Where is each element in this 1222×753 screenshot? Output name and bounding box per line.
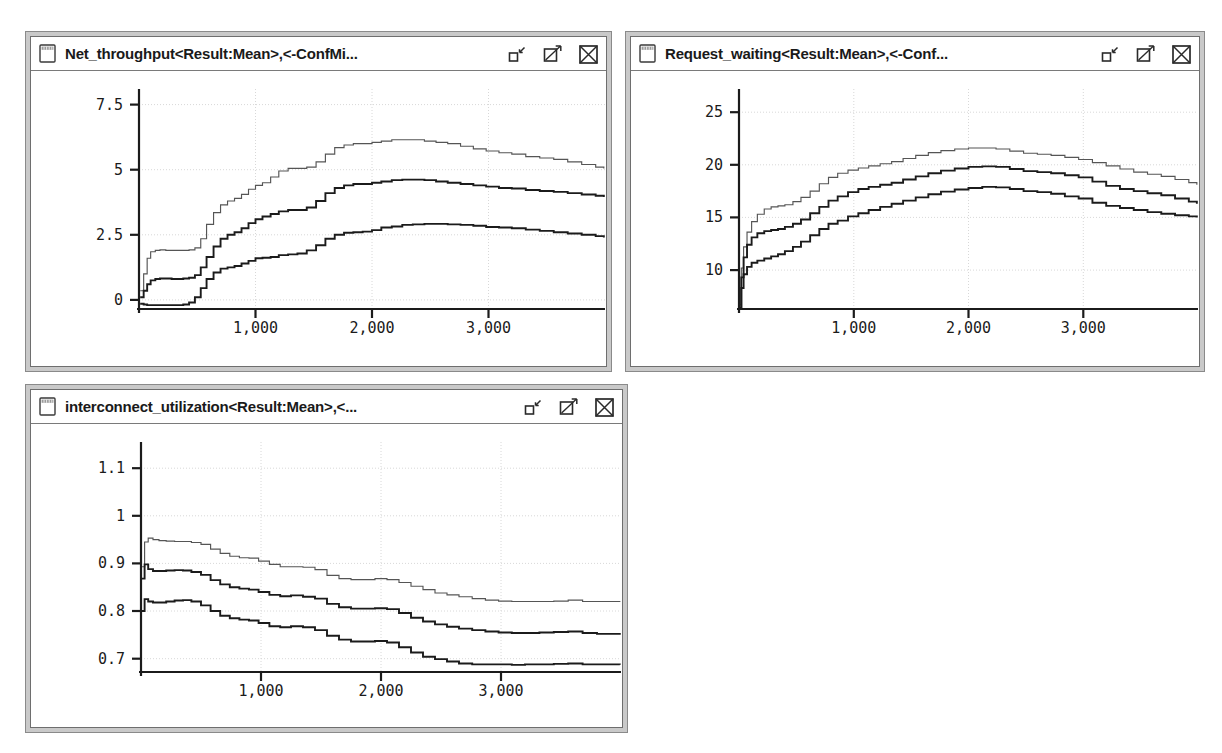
svg-text:1,000: 1,000 bbox=[831, 319, 876, 337]
svg-text:10: 10 bbox=[705, 261, 723, 279]
svg-text:15: 15 bbox=[705, 208, 723, 226]
maximize-button[interactable] bbox=[559, 396, 581, 418]
svg-text:0: 0 bbox=[114, 291, 123, 309]
svg-text:25: 25 bbox=[705, 103, 723, 121]
chart-svg: 02.557.51,0002,0003,000 bbox=[31, 71, 606, 366]
window-inner: Request_waiting<Result:Mean>,<-Conf... bbox=[630, 36, 1200, 367]
svg-text:3,000: 3,000 bbox=[1061, 319, 1106, 337]
svg-text:2,000: 2,000 bbox=[349, 319, 394, 337]
window-icon bbox=[39, 397, 56, 416]
window-title: interconnect_utilization<Result:Mean>,<.… bbox=[65, 398, 514, 415]
minimize-button[interactable] bbox=[508, 43, 530, 65]
svg-text:2,000: 2,000 bbox=[946, 319, 991, 337]
title-bar[interactable]: Request_waiting<Result:Mean>,<-Conf... bbox=[631, 37, 1199, 71]
minimize-button[interactable] bbox=[1101, 43, 1123, 65]
maximize-button[interactable] bbox=[543, 43, 565, 65]
svg-text:5: 5 bbox=[114, 161, 123, 179]
plot-area-net-throughput: 02.557.51,0002,0003,000 bbox=[31, 71, 606, 366]
window-interconnect-utilization[interactable]: interconnect_utilization<Result:Mean>,<.… bbox=[25, 384, 628, 733]
close-button[interactable] bbox=[1171, 43, 1193, 65]
chart-svg: 101520251,0002,0003,000 bbox=[631, 71, 1199, 366]
svg-text:3,000: 3,000 bbox=[478, 682, 523, 700]
svg-text:1.1: 1.1 bbox=[98, 459, 125, 477]
minimize-button[interactable] bbox=[524, 396, 546, 418]
window-net-throughput[interactable]: Net_throughput<Result:Mean>,<-ConfMi... bbox=[25, 31, 612, 372]
svg-text:2.5: 2.5 bbox=[96, 226, 123, 244]
svg-text:1,000: 1,000 bbox=[233, 319, 278, 337]
title-bar[interactable]: Net_throughput<Result:Mean>,<-ConfMi... bbox=[31, 37, 606, 71]
plot-area-request-waiting: 101520251,0002,0003,000 bbox=[631, 71, 1199, 366]
plot-area-interconnect-utilization: 0.70.80.911.11,0002,0003,000 bbox=[31, 424, 622, 727]
window-request-waiting[interactable]: Request_waiting<Result:Mean>,<-Conf... bbox=[625, 31, 1205, 372]
window-title: Request_waiting<Result:Mean>,<-Conf... bbox=[665, 45, 1091, 62]
close-button[interactable] bbox=[594, 396, 616, 418]
svg-text:0.7: 0.7 bbox=[98, 650, 125, 668]
window-icon bbox=[639, 44, 656, 63]
window-title: Net_throughput<Result:Mean>,<-ConfMi... bbox=[65, 45, 498, 62]
svg-text:1,000: 1,000 bbox=[238, 682, 283, 700]
chart-svg: 0.70.80.911.11,0002,0003,000 bbox=[31, 424, 622, 727]
svg-text:0.8: 0.8 bbox=[98, 602, 125, 620]
svg-text:2,000: 2,000 bbox=[358, 682, 403, 700]
svg-text:3,000: 3,000 bbox=[466, 319, 511, 337]
maximize-button[interactable] bbox=[1136, 43, 1158, 65]
svg-text:0.9: 0.9 bbox=[98, 554, 125, 572]
window-icon bbox=[39, 44, 56, 63]
window-controls bbox=[498, 43, 600, 65]
window-inner: interconnect_utilization<Result:Mean>,<.… bbox=[30, 389, 623, 728]
close-button[interactable] bbox=[578, 43, 600, 65]
window-controls bbox=[514, 396, 616, 418]
window-controls bbox=[1091, 43, 1193, 65]
svg-text:20: 20 bbox=[705, 156, 723, 174]
title-bar[interactable]: interconnect_utilization<Result:Mean>,<.… bbox=[31, 390, 622, 424]
svg-text:1: 1 bbox=[116, 507, 125, 525]
svg-text:7.5: 7.5 bbox=[96, 96, 123, 114]
window-inner: Net_throughput<Result:Mean>,<-ConfMi... bbox=[30, 36, 607, 367]
